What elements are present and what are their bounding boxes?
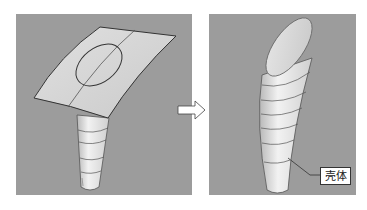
tube-before (77, 115, 109, 190)
callout-label: 壳体 (320, 167, 351, 185)
diagram-drawing (0, 0, 367, 210)
arrow-right-icon (178, 101, 205, 119)
surface-sheet (34, 27, 176, 118)
shell-solid (257, 11, 321, 193)
callout-leader (288, 158, 320, 175)
